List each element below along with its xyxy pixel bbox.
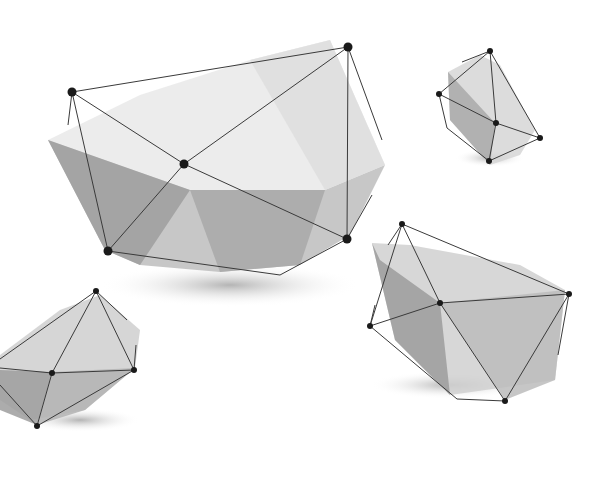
wire-edge (370, 305, 375, 326)
wire-node (131, 367, 137, 373)
wire-node (486, 158, 492, 164)
large-polyhedron (48, 40, 385, 307)
wire-node (34, 423, 40, 429)
wire-node (493, 120, 499, 126)
wire-node (344, 43, 353, 52)
wire-node (180, 160, 189, 169)
wire-node (537, 135, 543, 141)
abstract-polyhedra-scene (0, 0, 615, 489)
wire-node (343, 235, 352, 244)
wire-edge (388, 224, 402, 245)
wire-node (566, 291, 572, 297)
top-right-polyhedron (436, 48, 543, 167)
wire-node (502, 398, 508, 404)
polyhedra-group (0, 40, 572, 432)
wire-node (436, 91, 442, 97)
wire-node (399, 221, 405, 227)
bottom-right-polyhedron (367, 221, 572, 404)
wire-node (437, 300, 443, 306)
wire-node (93, 288, 99, 294)
wire-edge (68, 92, 72, 125)
wire-node (104, 247, 113, 256)
wire-edge (439, 94, 447, 128)
wire-node (367, 323, 373, 329)
wire-node (68, 88, 77, 97)
wire-node (487, 48, 493, 54)
bottom-left-polyhedron (0, 288, 140, 432)
wire-edge (457, 399, 505, 401)
wire-node (49, 370, 55, 376)
